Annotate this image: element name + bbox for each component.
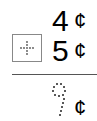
cent-sign-sum: ¢ [74,96,86,120]
sum-rule [12,74,97,75]
dotted-sum-digit-9[interactable] [50,82,70,118]
cent-sign-2: ¢ [74,39,86,63]
addend-1: 4 [52,6,69,36]
operator-box [12,34,42,62]
cent-sign-1: ¢ [74,9,86,33]
addend-2: 5 [52,36,69,66]
dotted-plus-icon [13,35,41,61]
